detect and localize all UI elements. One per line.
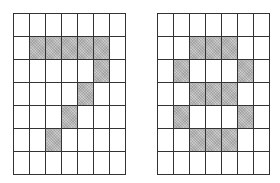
filled-cell bbox=[174, 106, 190, 129]
empty-cell bbox=[110, 129, 126, 152]
filled-cell bbox=[222, 129, 238, 152]
empty-cell bbox=[174, 37, 190, 60]
empty-cell bbox=[30, 152, 46, 175]
empty-cell bbox=[110, 37, 126, 60]
filled-cell bbox=[78, 83, 94, 106]
empty-cell bbox=[110, 152, 126, 175]
digit-eight-grid bbox=[157, 13, 270, 175]
empty-cell bbox=[62, 129, 78, 152]
empty-cell bbox=[14, 83, 30, 106]
filled-cell bbox=[30, 37, 46, 60]
empty-cell bbox=[238, 129, 254, 152]
empty-cell bbox=[190, 60, 206, 83]
empty-cell bbox=[62, 14, 78, 37]
empty-cell bbox=[30, 106, 46, 129]
empty-cell bbox=[110, 83, 126, 106]
empty-cell bbox=[222, 14, 238, 37]
empty-cell bbox=[78, 14, 94, 37]
filled-cell bbox=[78, 37, 94, 60]
empty-cell bbox=[174, 83, 190, 106]
empty-cell bbox=[62, 83, 78, 106]
empty-cell bbox=[14, 152, 30, 175]
empty-cell bbox=[158, 129, 174, 152]
empty-cell bbox=[78, 60, 94, 83]
empty-cell bbox=[30, 83, 46, 106]
empty-cell bbox=[78, 152, 94, 175]
empty-cell bbox=[254, 106, 270, 129]
digit-seven-grid bbox=[13, 13, 126, 175]
empty-cell bbox=[94, 83, 110, 106]
empty-cell bbox=[206, 152, 222, 175]
empty-cell bbox=[158, 83, 174, 106]
filled-cell bbox=[94, 60, 110, 83]
filled-cell bbox=[238, 106, 254, 129]
empty-cell bbox=[174, 14, 190, 37]
empty-cell bbox=[158, 14, 174, 37]
empty-cell bbox=[222, 60, 238, 83]
empty-cell bbox=[190, 14, 206, 37]
empty-cell bbox=[158, 152, 174, 175]
empty-cell bbox=[222, 152, 238, 175]
filled-cell bbox=[238, 60, 254, 83]
empty-cell bbox=[94, 14, 110, 37]
empty-cell bbox=[30, 129, 46, 152]
empty-cell bbox=[110, 14, 126, 37]
empty-cell bbox=[254, 129, 270, 152]
empty-cell bbox=[30, 60, 46, 83]
filled-cell bbox=[94, 37, 110, 60]
empty-cell bbox=[94, 106, 110, 129]
empty-cell bbox=[110, 60, 126, 83]
empty-cell bbox=[78, 106, 94, 129]
empty-cell bbox=[46, 152, 62, 175]
filled-cell bbox=[222, 37, 238, 60]
empty-cell bbox=[158, 60, 174, 83]
filled-cell bbox=[62, 37, 78, 60]
empty-cell bbox=[94, 152, 110, 175]
empty-cell bbox=[46, 83, 62, 106]
empty-cell bbox=[174, 152, 190, 175]
filled-cell bbox=[46, 37, 62, 60]
empty-cell bbox=[14, 60, 30, 83]
empty-cell bbox=[254, 83, 270, 106]
empty-cell bbox=[222, 106, 238, 129]
filled-cell bbox=[222, 83, 238, 106]
empty-cell bbox=[62, 152, 78, 175]
filled-cell bbox=[190, 129, 206, 152]
empty-cell bbox=[30, 14, 46, 37]
empty-cell bbox=[110, 106, 126, 129]
empty-cell bbox=[190, 152, 206, 175]
empty-cell bbox=[206, 106, 222, 129]
empty-cell bbox=[174, 129, 190, 152]
empty-cell bbox=[238, 37, 254, 60]
empty-cell bbox=[254, 37, 270, 60]
empty-cell bbox=[254, 14, 270, 37]
filled-cell bbox=[206, 83, 222, 106]
empty-cell bbox=[158, 37, 174, 60]
filled-cell bbox=[46, 129, 62, 152]
empty-cell bbox=[94, 129, 110, 152]
filled-cell bbox=[62, 106, 78, 129]
empty-cell bbox=[14, 106, 30, 129]
empty-cell bbox=[46, 14, 62, 37]
empty-cell bbox=[238, 14, 254, 37]
empty-cell bbox=[14, 129, 30, 152]
empty-cell bbox=[206, 60, 222, 83]
empty-cell bbox=[206, 14, 222, 37]
empty-cell bbox=[46, 106, 62, 129]
empty-cell bbox=[238, 152, 254, 175]
filled-cell bbox=[190, 83, 206, 106]
filled-cell bbox=[206, 37, 222, 60]
empty-cell bbox=[62, 60, 78, 83]
empty-cell bbox=[78, 129, 94, 152]
filled-cell bbox=[206, 129, 222, 152]
empty-cell bbox=[14, 14, 30, 37]
filled-cell bbox=[174, 60, 190, 83]
empty-cell bbox=[190, 106, 206, 129]
filled-cell bbox=[190, 37, 206, 60]
empty-cell bbox=[158, 106, 174, 129]
empty-cell bbox=[238, 83, 254, 106]
empty-cell bbox=[254, 152, 270, 175]
empty-cell bbox=[14, 37, 30, 60]
empty-cell bbox=[254, 60, 270, 83]
empty-cell bbox=[46, 60, 62, 83]
